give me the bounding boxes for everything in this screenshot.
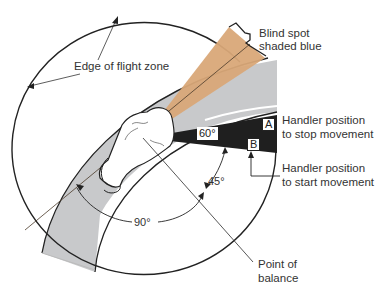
- arrow-head: [112, 16, 118, 24]
- angle-60-label: 60°: [197, 127, 218, 140]
- label-handler-start-line2: to start movement: [282, 175, 374, 189]
- label-point-of-balance-line1: Point of: [258, 257, 297, 271]
- marker-a-stop: A: [262, 118, 275, 131]
- chute-shaded-area: [42, 60, 277, 272]
- label-blind-spot-line1: Blind spot: [259, 26, 310, 40]
- angle-45-label: 45°: [208, 175, 225, 187]
- label-blind-spot-line2: shaded blue: [259, 39, 322, 53]
- label-handler-start-line1: Handler position: [282, 161, 365, 175]
- flight-zone-pointer-left: [30, 74, 80, 86]
- point-of-balance-line: [143, 138, 253, 262]
- angle-90-label: 90°: [134, 216, 151, 228]
- marker-b-start: B: [247, 138, 260, 151]
- label-point-of-balance-line2: balance: [258, 271, 298, 285]
- label-edge-of-flight-zone: Edge of flight zone: [74, 59, 169, 73]
- label-handler-stop-line1: Handler position: [282, 113, 365, 127]
- flight-zone-pointer-top: [98, 20, 116, 60]
- arrow-head: [248, 151, 254, 158]
- label-handler-stop-line2: to stop movement: [282, 127, 373, 141]
- angle-45-arrow-up: [222, 147, 228, 154]
